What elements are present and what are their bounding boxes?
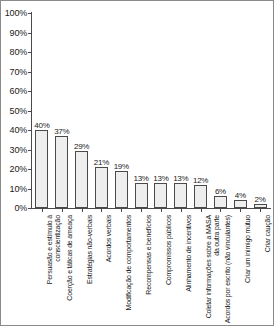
y-tick-label: 50% [10,106,32,116]
x-tick-mark [82,208,83,212]
y-tick-label: 100% [5,8,32,18]
x-tick-mark [141,208,142,212]
x-category-label: Persuasão e estímulo à conscientização [46,215,62,326]
y-tick-label: 0% [14,203,32,213]
bar: 4% [234,200,247,208]
x-category-label: Acordos verbais [105,215,113,326]
bar: 37% [55,136,68,208]
x-tick-mark [101,208,102,212]
bar-value-label: 12% [193,176,208,185]
bar: 21% [95,167,108,208]
y-tick-label: 30% [10,145,32,155]
y-tick-label: 90% [10,28,32,38]
bar-chart-figure: 100%90%80%70%60%50%40%30%20%10%0% 40%37%… [0,0,274,326]
y-tick-label: 80% [10,47,32,57]
x-tick-mark [181,208,182,212]
y-tick-label: 10% [10,184,32,194]
x-category-label: Estratégias não-verbais [86,215,94,326]
bar: 13% [174,183,187,208]
x-tick-mark [42,208,43,212]
bar: 40% [35,130,48,208]
bar-value-label: 19% [114,162,129,171]
x-category-label: Coerção e táticas de ameaça [66,215,74,326]
x-axis-line [31,208,271,209]
y-tick-label: 20% [10,164,32,174]
bar-value-label: 2% [255,195,266,204]
plot-area: 100%90%80%70%60%50%40%30%20%10%0% 40%37%… [32,13,270,208]
y-tick-label: 60% [10,86,32,96]
x-tick-mark [121,208,122,212]
bar-value-label: 37% [54,127,69,136]
x-tick-mark [161,208,162,212]
bar: 29% [75,151,88,208]
x-category-label: Coletar informações sobre a MASA da outr… [205,215,221,326]
bar-value-label: 13% [173,174,188,183]
x-category-label: Criar caução [264,215,272,326]
x-category-label: Modificação de comportamentos [125,215,133,326]
bar-value-label: 6% [215,187,226,196]
bar-value-label: 13% [134,174,149,183]
x-category-label: Recompensas e benefícios [145,215,153,326]
x-tick-mark [240,208,241,212]
x-tick-mark [260,208,261,212]
x-category-label: Acordos por escrito (não vinculantes) [224,215,232,326]
x-category-label: Alinhamento de incentivos [185,215,193,326]
y-tick-label: 40% [10,125,32,135]
x-category-label: Compromissos públicos [165,215,173,326]
x-tick-mark [220,208,221,212]
bar: 19% [115,171,128,208]
bar-value-label: 29% [74,142,89,151]
x-category-label: Criar um inimigo mútuo [244,215,252,326]
bar-value-label: 4% [235,191,246,200]
bar-value-label: 40% [34,121,49,130]
bar: 13% [135,183,148,208]
bar: 6% [214,196,227,208]
x-tick-mark [62,208,63,212]
x-tick-mark [201,208,202,212]
bar: 13% [154,183,167,208]
y-tick-label: 70% [10,67,32,77]
bar-value-label: 21% [94,158,109,167]
bar-value-label: 13% [153,174,168,183]
bar: 12% [194,185,207,208]
